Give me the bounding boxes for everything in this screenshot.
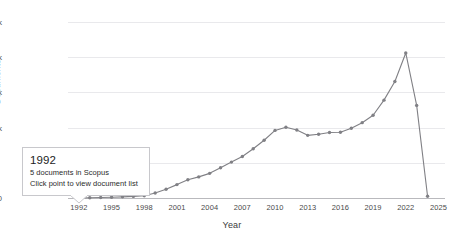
data-point-2020[interactable] [382, 98, 385, 101]
tooltip-pointer-icon [70, 195, 88, 204]
data-point-2018[interactable] [360, 121, 363, 124]
data-point-2014[interactable] [317, 133, 320, 136]
data-point-2016[interactable] [339, 130, 342, 133]
data-point-2019[interactable] [371, 114, 374, 117]
chart-screenshot: 25k 20k 15k 10k 0 Documents 199219951998… [0, 0, 464, 245]
data-point-2022[interactable] [404, 51, 407, 54]
data-point-2007[interactable] [241, 155, 244, 158]
data-point-2004[interactable] [208, 172, 211, 175]
data-point-2024[interactable] [426, 195, 429, 198]
data-point-tooltip[interactable]: 1992 5 documents in Scopus Click point t… [22, 147, 150, 196]
data-point-2010[interactable] [273, 129, 276, 132]
data-point-1999[interactable] [153, 191, 156, 194]
data-point-2011[interactable] [284, 126, 287, 129]
data-point-2002[interactable] [186, 178, 189, 181]
data-point-2001[interactable] [175, 183, 178, 186]
data-point-2021[interactable] [393, 80, 396, 83]
data-point-2005[interactable] [219, 166, 222, 169]
data-point-2015[interactable] [328, 131, 331, 134]
data-series-layer [0, 0, 464, 245]
data-point-2013[interactable] [306, 134, 309, 137]
data-point-2008[interactable] [252, 147, 255, 150]
tooltip-hint: Click point to view document list [30, 178, 142, 189]
data-point-1994[interactable] [99, 196, 102, 199]
data-point-2000[interactable] [164, 188, 167, 191]
data-point-2012[interactable] [295, 128, 298, 131]
tooltip-year: 1992 [30, 153, 142, 167]
data-point-2023[interactable] [415, 104, 418, 107]
data-point-1993[interactable] [88, 196, 91, 199]
data-point-2003[interactable] [197, 175, 200, 178]
tooltip-count: 5 documents in Scopus [30, 167, 142, 178]
data-point-2017[interactable] [350, 127, 353, 130]
data-point-2006[interactable] [230, 160, 233, 163]
data-point-1995[interactable] [110, 196, 113, 199]
data-point-2009[interactable] [262, 139, 265, 142]
